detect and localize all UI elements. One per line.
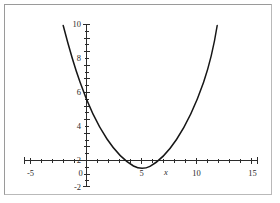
y-tick-label-2: 2 [77, 155, 81, 165]
x-axis-label: x [163, 167, 168, 177]
y-tick-label-10: 10 [73, 19, 82, 29]
x-tick-label-0: 0 [78, 168, 82, 178]
x-axis-minor-ticks [31, 158, 252, 164]
y-tick-label-neg2: -2 [74, 182, 81, 192]
x-tick-label-15: 15 [248, 168, 257, 178]
chart-screenshot: -5 0 5 10 15 x 10 8 6 4 2 -2 [0, 0, 280, 203]
y-tick-label-6: 6 [77, 87, 81, 97]
parabola-plot: -5 0 5 10 15 x 10 8 6 4 2 -2 [0, 0, 280, 203]
x-tick-label-10: 10 [192, 168, 201, 178]
y-tick-label-8: 8 [77, 53, 81, 63]
x-tick-label-5: 5 [139, 168, 143, 178]
y-tick-label-4: 4 [77, 121, 82, 131]
x-tick-label-neg5: -5 [27, 168, 34, 178]
